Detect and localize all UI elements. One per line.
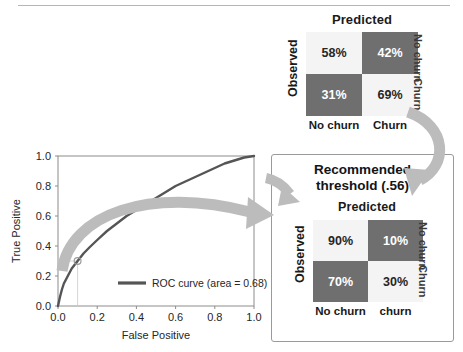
matrix-top-cell-fn: 31% [306,74,362,116]
roc-curve-chart: 0.00.20.40.60.81.0 0.00.20.40.60.81.0 RO… [6,148,274,348]
y-tick-label: 0.2 [36,270,51,282]
x-tick-label: 0.0 [50,311,65,323]
matrix-top-title: Predicted [278,12,446,27]
matrix-bottom-grid: 90% 10% 70% 30% [313,220,423,302]
x-tick-label: 0.2 [90,311,105,323]
matrix-bottom-col-label-churn: churn [368,305,423,317]
matrix-bottom-row-label-churn: Churn [417,265,429,297]
matrix-bottom-cell-fp: 10% [368,220,423,261]
x-tick-label: 0.8 [207,311,222,323]
confusion-matrix-thresholded: Predicted Observed 90% 10% 70% 30% No ch… [283,200,451,330]
matrix-top-row-label-no-churn: No churn [412,34,424,82]
y-tick-label: 1.0 [36,150,51,162]
matrix-bottom-cell-fn: 70% [313,261,368,302]
matrix-top-cell-tp: 69% [362,74,418,116]
matrix-top-grid: 58% 42% 31% 69% [306,32,418,116]
threshold-heading-line-1: Recommended [272,162,453,178]
x-tick-label: 0.4 [129,311,144,323]
confusion-matrix-baseline: Predicted Observed 58% 42% 31% 69% No ch… [278,12,446,140]
matrix-bottom-row-label-no-churn: No churn [417,222,429,270]
top-divider-rule [18,5,450,6]
matrix-bottom-cell-tp: 30% [368,261,423,302]
matrix-bottom-observed-label: Observed [293,227,307,283]
y-tick-label: 0.6 [36,210,51,222]
figure-canvas: Predicted Observed 58% 42% 31% 69% No ch… [0,0,463,352]
matrix-top-col-label-churn: Churn [362,119,418,131]
x-axis-ticks: 0.00.20.40.60.81.0 [50,306,261,323]
x-tick-label: 0.6 [168,311,183,323]
matrix-top-cell-fp: 42% [362,32,418,74]
matrix-bottom-col-label-no-churn: No churn [313,305,368,317]
x-tick-label: 1.0 [246,311,261,323]
matrix-bottom-cell-tn: 90% [313,220,368,261]
matrix-bottom-title: Predicted [283,200,451,214]
roc-chart-svg: 0.00.20.40.60.81.0 0.00.20.40.60.81.0 RO… [6,148,274,348]
matrix-top-col-label-no-churn: No churn [306,119,362,131]
threshold-panel-heading: Recommended threshold (.56) [272,162,453,194]
matrix-top-cell-tn: 58% [306,32,362,74]
matrix-top-row-label-churn: Churn [412,78,424,110]
y-axis-title: True Positive [10,199,22,263]
y-tick-label: 0.8 [36,180,51,192]
y-tick-label: 0.4 [36,240,51,252]
threshold-heading-line-2: threshold (.56) [272,178,453,194]
y-tick-label: 0.0 [36,300,51,312]
y-axis-ticks: 0.00.20.40.60.81.0 [36,150,58,312]
x-axis-title: False Positive [122,329,190,341]
legend-label-roc: ROC curve (area = 0.68) [152,277,267,289]
matrix-top-observed-label: Observed [286,41,300,97]
